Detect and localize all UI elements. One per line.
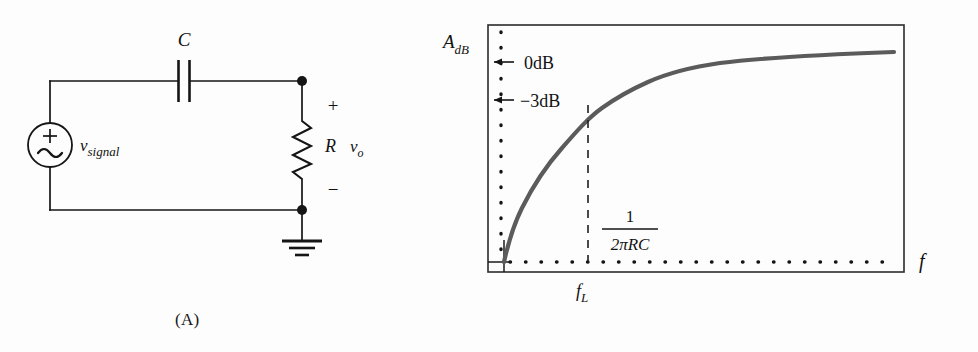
- y-axis-label: AdB: [441, 31, 469, 57]
- ac-source-symbol: [28, 123, 72, 167]
- corner-frequency-expression: 1 2πRC: [602, 207, 658, 254]
- source-label: vsignal: [80, 136, 120, 159]
- corner-freq-numerator: 1: [626, 207, 635, 226]
- marker-0db: 0dB: [494, 53, 554, 73]
- y-axis-label-sub: dB: [455, 42, 470, 57]
- marker-minus3db-label: −3dB: [520, 91, 560, 111]
- output-voltage-sub: o: [358, 146, 364, 160]
- arrow-head-0db: [494, 58, 502, 65]
- response-curve: [504, 52, 894, 262]
- polarity-minus-label: −: [328, 179, 339, 200]
- figure-root: C vsignal R vo + −: [0, 0, 978, 352]
- cutoff-frequency-label: fL: [576, 281, 588, 305]
- plus-icon: [43, 129, 57, 143]
- sine-wave-icon: [38, 149, 62, 157]
- panel-response-plot: 0dB −3dB 1 2πRC AdB f fL: [430, 0, 978, 352]
- panel-circuit-schematic: C vsignal R vo + −: [0, 0, 430, 352]
- cutoff-frequency-sub: L: [580, 290, 588, 305]
- source-label-sub: signal: [88, 144, 120, 159]
- marker-0db-label: 0dB: [524, 53, 554, 73]
- caption-panel-a: (A): [175, 310, 200, 330]
- x-axis-label: f: [919, 250, 927, 273]
- marker-minus3db: −3dB: [494, 91, 560, 111]
- resistor-symbol: [293, 121, 311, 179]
- capacitor-label: C: [178, 29, 191, 50]
- polarity-plus-label: +: [328, 95, 339, 116]
- arrow-head-minus3db: [494, 96, 502, 103]
- corner-freq-denominator: 2πRC: [611, 235, 650, 254]
- output-voltage-label: vo: [350, 137, 364, 160]
- y-axis-label-main: A: [441, 31, 455, 52]
- node-dot-bottom: [297, 205, 307, 215]
- resistor-label: R: [324, 136, 336, 156]
- capacitor-symbol: [179, 60, 190, 102]
- plot-svg: 0dB −3dB 1 2πRC AdB f fL: [430, 0, 978, 310]
- circuit-wires: [50, 81, 302, 240]
- ground-icon: [282, 241, 322, 255]
- node-dot-top: [297, 76, 307, 86]
- circuit-svg: C vsignal R vo + −: [0, 0, 430, 310]
